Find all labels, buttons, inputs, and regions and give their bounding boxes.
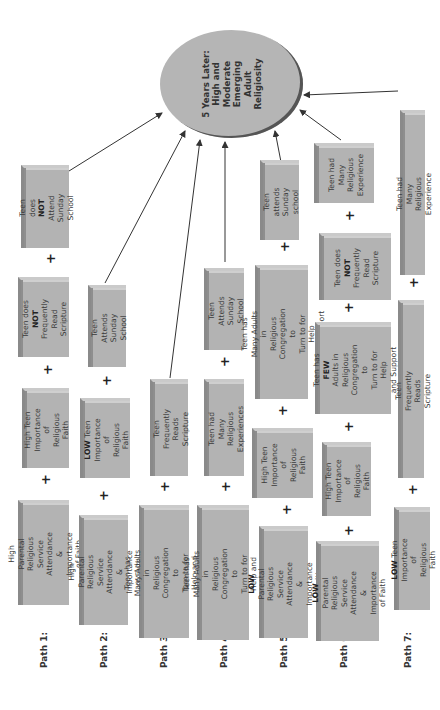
factor-box: LOW Parental Religious Service Attendanc… xyxy=(259,526,308,638)
plus-sign: + xyxy=(97,489,110,502)
plus-sign: + xyxy=(158,480,171,493)
factor-box: Teen has Many Adults in Religious Congre… xyxy=(197,505,249,640)
path-label: Path 1: xyxy=(39,632,49,668)
factor-box: Teen does NOT Frequently Read Scripture xyxy=(319,233,391,300)
arrow-path-2 xyxy=(105,131,185,283)
arrow-path-1 xyxy=(69,113,162,171)
plus-sign: + xyxy=(218,355,231,368)
factor-box: High Teen Importance of Religious Faith xyxy=(252,428,313,498)
factor-box: Teen attends Sunday school xyxy=(260,160,299,240)
plus-sign: + xyxy=(276,404,289,417)
plus-sign: + xyxy=(280,503,293,516)
factor-box: High Parental Religious Service Attendan… xyxy=(18,500,69,605)
plus-sign: + xyxy=(44,252,57,265)
outcome-node: 5 Years Later: High and Moderate Emergin… xyxy=(160,30,303,138)
factor-box: High Parental Religious Service Attendan… xyxy=(79,515,128,625)
plus-sign: + xyxy=(342,301,355,314)
plus-sign: + xyxy=(342,420,355,433)
plus-sign: + xyxy=(41,363,54,376)
factor-box: High Teen Importance of Religious Faith xyxy=(22,388,69,468)
arrow-path-5 xyxy=(275,131,281,162)
factor-box: Teen does NOT Attend Sunday School xyxy=(21,165,69,248)
factor-box: Teen does NOT Frequently Read Scripture xyxy=(18,277,69,357)
factor-box: Teen had Many Religious Experience xyxy=(314,143,374,203)
factor-box: LOW Teen Importance of Religious Faith xyxy=(394,507,430,610)
path-label: Path 2: xyxy=(99,632,109,668)
factor-box: Teen had Many Religious Experiences xyxy=(204,379,244,476)
factor-box: LOW Parental Religious Service Attendanc… xyxy=(316,541,379,641)
plus-sign: + xyxy=(343,209,356,222)
factor-box: Teen Attends Sunday School xyxy=(88,285,126,367)
factor-box: Teen has Many Adults in Religious Congre… xyxy=(255,265,308,399)
factor-box: LOW Teen Importance of Religious Faith xyxy=(80,398,130,478)
plus-sign: + xyxy=(407,276,420,289)
arrow-path-3 xyxy=(170,140,200,378)
arrow-path-7 xyxy=(304,91,398,95)
factor-box: Teen Attends Sunday School xyxy=(204,268,244,350)
outcome-label: 5 Years Later: High and Moderate Emergin… xyxy=(200,50,262,117)
plus-sign: + xyxy=(406,483,419,496)
plus-sign: + xyxy=(342,524,355,537)
factor-box: Teen Frequently Reads Scripture xyxy=(150,379,188,476)
arrow-path-6 xyxy=(300,110,341,140)
plus-sign: + xyxy=(100,374,113,387)
factor-box: Teen has FEW Adults in Religious Congreg… xyxy=(315,322,391,414)
religiosity-path-diagram: 5 Years Later: High and Moderate Emergin… xyxy=(0,0,440,710)
factor-box: Teen had Many Religious Experience xyxy=(400,110,425,275)
factor-box: High Teen Importance of Religious Faith xyxy=(322,442,371,516)
path-label: Path 7: xyxy=(403,632,413,668)
plus-sign: + xyxy=(219,480,232,493)
factor-box: Teen Frequently Reads Scripture xyxy=(398,300,424,478)
plus-sign: + xyxy=(39,473,52,486)
plus-sign: + xyxy=(278,240,291,253)
